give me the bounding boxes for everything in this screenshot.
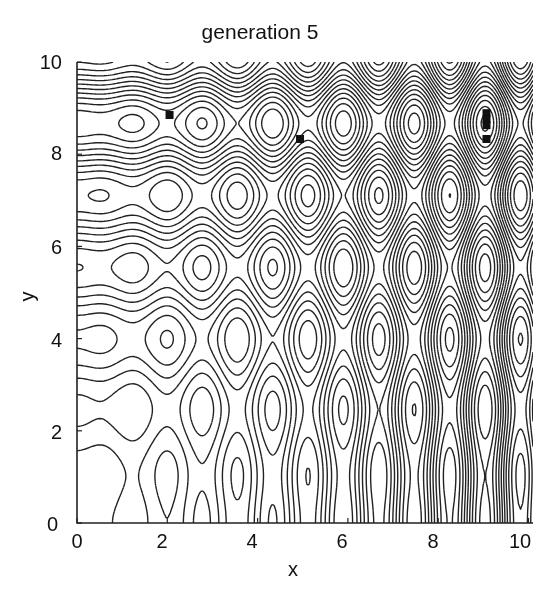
chart-title: generation 5 xyxy=(150,20,370,44)
y-axis-label: y xyxy=(16,292,39,302)
y-tick-label: 6 xyxy=(20,237,62,257)
x-tick-label: 0 xyxy=(57,531,97,551)
contour-figure: generation 5 0 2 4 6 8 10 0 2 4 6 8 10 x… xyxy=(0,0,558,601)
y-tick-label: 4 xyxy=(20,330,62,350)
x-axis-label: x xyxy=(288,558,298,581)
y-tick-label: 0 xyxy=(16,514,58,534)
x-tick-label: 4 xyxy=(232,531,272,551)
y-tick-label: 10 xyxy=(20,52,62,72)
y-tick-label: 8 xyxy=(20,143,62,163)
contour-plot-area xyxy=(0,0,558,601)
x-tick-label: 2 xyxy=(142,531,182,551)
x-tick-label: 8 xyxy=(413,531,453,551)
x-tick-label: 10 xyxy=(500,531,540,551)
y-tick-label: 2 xyxy=(20,422,62,442)
x-tick-label: 6 xyxy=(322,531,362,551)
